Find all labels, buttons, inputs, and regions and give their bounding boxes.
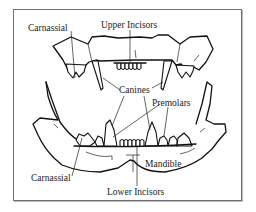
upper-carnassial-left <box>66 64 86 78</box>
lower-canine-right <box>145 122 158 146</box>
label-upper-incisors: Upper Incisors <box>101 20 157 30</box>
upper-jaw-line-left <box>88 44 92 62</box>
label-carnassial-upper: Carnassial <box>28 23 68 33</box>
leader-canines-lower-left <box>112 96 124 126</box>
label-premolars: Premolars <box>152 98 191 108</box>
mandible-outline <box>33 82 226 172</box>
label-mandible: Mandible <box>145 159 181 169</box>
label-canines: Canines <box>119 85 150 95</box>
upper-jaw <box>53 35 213 90</box>
upper-jaw-line-right <box>177 44 180 62</box>
lower-canine-left <box>104 120 117 146</box>
upper-canine-left <box>92 61 103 90</box>
label-lower-incisors: Lower Incisors <box>107 187 165 197</box>
upper-carnassial-right <box>176 65 194 78</box>
leader-premolars-2 <box>164 107 168 136</box>
leader-canines-left <box>103 78 120 90</box>
lower-carnassial-left <box>76 133 95 146</box>
label-carnassial-lower: Carnassial <box>31 173 71 183</box>
lower-incisors-group <box>120 140 144 147</box>
jaw-diagram: Carnassial Upper Incisors Canines Premol… <box>0 0 256 212</box>
upper-canine-right <box>161 61 172 90</box>
upper-incisors-group <box>114 63 146 70</box>
lower-teeth <box>74 120 196 147</box>
lower-premolar-1 <box>158 136 168 146</box>
mandible <box>33 82 226 172</box>
